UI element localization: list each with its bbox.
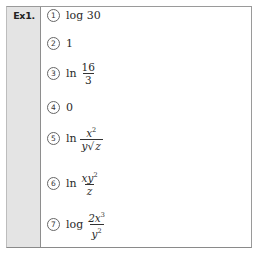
answer-3: 3 ln 16 3 xyxy=(47,61,97,86)
fraction: 16 3 xyxy=(80,61,97,86)
answer-1: 1 log 30 xyxy=(47,9,101,22)
answer-text: 1 xyxy=(66,37,73,50)
function-name: ln xyxy=(66,132,77,145)
fraction: 2x3 y2 xyxy=(86,209,107,240)
circled-number-2: 2 xyxy=(47,37,60,50)
answer-7: 7 log 2x3 y2 xyxy=(47,209,107,240)
answer-6: 6 ln xy2 z xyxy=(47,169,100,197)
answer-table: Ex1. 1 log 30 2 1 3 ln 16 3 4 0 5 ln x2 xyxy=(6,6,252,248)
numerator: 2x3 xyxy=(86,209,107,224)
circled-number-1: 1 xyxy=(47,9,60,22)
answer-text: 0 xyxy=(66,101,73,114)
circled-number-7: 7 xyxy=(47,218,60,231)
function-name: log xyxy=(66,218,83,231)
function-name: ln xyxy=(66,177,77,190)
answer-text: log 30 xyxy=(66,9,101,22)
example-label: Ex1. xyxy=(7,10,41,21)
circled-number-6: 6 xyxy=(47,177,60,190)
denominator: y√z xyxy=(80,139,103,152)
label-column: Ex1. xyxy=(7,7,41,247)
denominator: y2 xyxy=(90,224,104,240)
circled-number-5: 5 xyxy=(47,132,60,145)
denominator: 3 xyxy=(83,73,94,86)
denominator: z xyxy=(85,184,95,197)
fraction: xy2 z xyxy=(80,169,100,197)
answer-2: 2 1 xyxy=(47,37,73,50)
answer-4: 4 0 xyxy=(47,101,73,114)
circled-number-3: 3 xyxy=(47,67,60,80)
numerator: x2 xyxy=(84,124,98,139)
answers-column: 1 log 30 2 1 3 ln 16 3 4 0 5 ln x2 y√z xyxy=(41,7,251,247)
numerator: 16 xyxy=(80,61,97,73)
circled-number-4: 4 xyxy=(47,101,60,114)
function-name: ln xyxy=(66,67,77,80)
fraction: x2 y√z xyxy=(80,124,103,152)
answer-5: 5 ln x2 y√z xyxy=(47,124,103,152)
numerator: xy2 xyxy=(80,169,100,184)
